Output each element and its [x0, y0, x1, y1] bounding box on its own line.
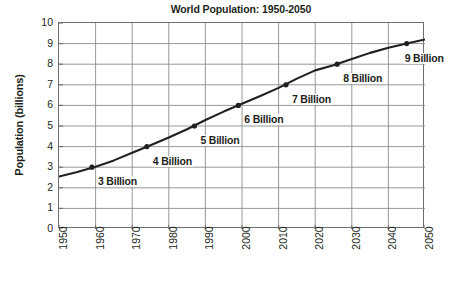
y-axis-tick-label: 8 — [30, 58, 53, 69]
data-point-annotation: 8 Billion — [342, 73, 383, 84]
y-axis-tick-label: 2 — [30, 182, 53, 193]
y-axis-tick-label: 7 — [30, 79, 53, 90]
y-axis-tick-label: 3 — [30, 161, 53, 172]
y-axis-tick-labels: 012345678910 — [30, 22, 53, 228]
x-axis-tick-text: 1960 — [95, 226, 106, 249]
x-axis-tick-text: 2020 — [314, 226, 325, 249]
x-axis-tick-text: 2000 — [241, 226, 252, 249]
data-point-marker — [236, 103, 241, 108]
y-axis-tick-label: 9 — [30, 38, 53, 49]
data-point-annotation: 9 Billion — [404, 53, 445, 64]
x-axis-tick-text: 2040 — [387, 226, 398, 249]
y-axis-tick-marks — [59, 23, 63, 229]
y-axis-tick-label: 4 — [30, 141, 53, 152]
data-point-annotation: 7 Billion — [291, 94, 332, 105]
y-axis-title-container: Population (billions) — [8, 22, 30, 228]
y-axis-title: Population (billions) — [13, 74, 25, 176]
data-point-annotation: 3 Billion — [97, 176, 138, 187]
y-axis-tick-label: 5 — [30, 120, 53, 131]
chart-figure: World Population: 1950-2050 Population (… — [0, 0, 451, 286]
y-axis-tick-label: 10 — [30, 17, 53, 28]
y-axis-tick-label: 1 — [30, 202, 53, 213]
data-point-annotation: 5 Billion — [199, 135, 240, 146]
plot-area — [58, 22, 424, 228]
data-point-annotation: 4 Billion — [152, 156, 193, 167]
x-axis-tick-labels: 1950196019701980199020002010202020302040… — [58, 228, 424, 284]
y-axis-tick-label: 0 — [30, 223, 53, 234]
x-axis-tick-text: 1980 — [168, 226, 179, 249]
data-point-marker — [144, 144, 149, 149]
chart-title: World Population: 1950-2050 — [58, 3, 424, 15]
x-axis-tick-text: 2030 — [351, 226, 362, 249]
chart-svg — [59, 23, 425, 229]
data-point-marker — [89, 165, 94, 170]
data-point-marker — [192, 123, 197, 128]
y-axis-tick-label: 6 — [30, 99, 53, 110]
data-point-marker — [404, 41, 409, 46]
x-axis-tick-text: 1950 — [58, 226, 69, 249]
data-point-marker — [335, 62, 340, 67]
x-axis-tick-text: 1990 — [204, 226, 215, 249]
x-axis-tick-text: 2010 — [278, 226, 289, 249]
x-axis-tick-text: 1970 — [131, 226, 142, 249]
data-point-annotation: 6 Billion — [243, 114, 284, 125]
data-point-marker — [283, 82, 288, 87]
x-axis-tick-text: 2050 — [424, 226, 435, 249]
